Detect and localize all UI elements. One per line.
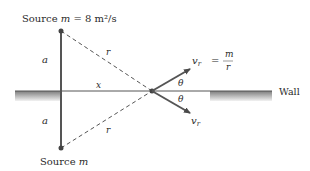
- velocity-arrow-upper: [152, 69, 190, 91]
- top-source-label: Source m = 8 m²/s: [22, 13, 117, 24]
- r-upper-label: r: [106, 47, 111, 57]
- bottom-source-label: Source m: [40, 156, 88, 167]
- wall-label: Wall: [279, 86, 300, 97]
- velocity-arrow-lower: [152, 91, 190, 113]
- a-lower-label: a: [42, 115, 48, 126]
- r-lower-label: r: [106, 125, 111, 135]
- dashed-r-lower: [61, 91, 152, 148]
- x-label: x: [96, 80, 101, 90]
- vr-upper-label: vr: [192, 55, 202, 68]
- a-upper-label: a: [42, 54, 48, 65]
- top-source-point: [59, 29, 64, 34]
- vr-lower-label: vr: [191, 115, 201, 128]
- dashed-r-upper: [61, 31, 152, 91]
- source-wall-diagram: Source m = 8 m²/s Source m a a r r x θ θ…: [0, 0, 310, 171]
- bottom-source-point: [59, 146, 64, 151]
- theta-upper-label: θ: [178, 78, 184, 88]
- left-wall-shading: [15, 91, 61, 101]
- right-wall-shading: [210, 91, 272, 101]
- frac-numerator: m: [225, 49, 234, 59]
- frac-denominator: r: [226, 62, 231, 72]
- theta-lower-label: θ: [178, 94, 184, 104]
- vr-equals: =: [211, 55, 219, 66]
